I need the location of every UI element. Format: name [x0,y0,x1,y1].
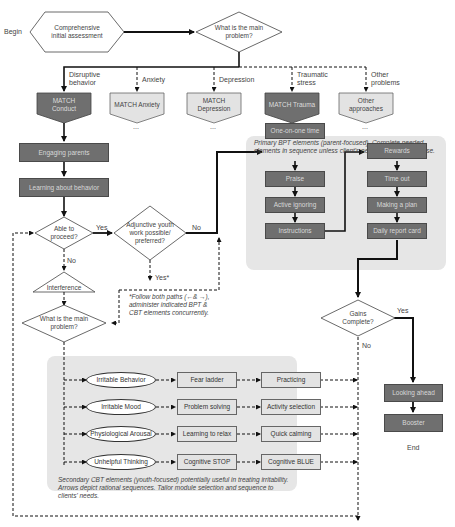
bpt-daily-report-card: Daily report card [367,223,427,239]
main-problem-decision-2: What is the main problem? [36,314,92,332]
cbt-practicing: Practicing [261,372,321,388]
cbt-learning-to-relax: Learning to relax [177,426,237,442]
branch-label-trauma: Traumatic stress [297,71,333,87]
step-engaging-parents: Engaging parents [19,143,109,162]
bpt-rewards: Rewards [367,143,427,159]
cbt-problem-unhelpful-thinking: Unhelpful Thinking [86,454,156,470]
branch-label-anxiety: Anxiety [142,76,165,84]
yes-label-1: Yes [96,224,107,232]
end-label: End [407,444,419,452]
cbt-quick-calming: Quick calming [261,426,321,442]
module-match-depression: MATCH Depression [189,96,239,114]
module-match-conduct: MATCH Conduct [40,96,88,114]
step-learning-about-behavior: Learning about behavior [19,178,109,197]
branch-label-disruptive: Disruptive behavior [69,71,109,87]
module-match-anxiety: MATCH Anxiety [113,96,161,114]
branch-label-depression: Depression [219,76,254,84]
bpt-praise: Praise [265,171,325,187]
cbt-problem-irritable-mood: Irritable Mood [86,399,156,415]
adjunctive-decision: Adjunctive youth work possible/ preferre… [124,218,176,248]
no-label-proceed: No [67,257,76,265]
yes-label-gains: Yes [397,307,408,315]
gains-complete-decision: Gains Complete? [336,310,380,326]
cbt-panel [47,356,297,491]
ellipsis-depression: ... [210,123,216,131]
cbt-cognitive-stop: Cognitive STOP [177,454,237,470]
bpt-instructions: Instructions [265,223,325,239]
yes-star-label: Yes* [155,274,169,282]
bpt-time-out: Time out [367,171,427,187]
cbt-cognitive-blue: Cognitive BLUE [261,454,321,470]
begin-label: Begin [4,28,22,36]
cbt-problem-irritable-behavior: Irritable Behavior [86,372,156,388]
comprehensive-assessment: Comprehensive initial assessment [46,20,108,44]
bpt-making-a-plan: Making a plan [367,197,427,213]
able-to-proceed-decision: Able to proceed? [50,225,78,241]
footnote: *Follow both paths (←& →), administer in… [129,293,211,317]
cbt-activity-selection: Activity selection [261,399,321,415]
cbt-problem-solving: Problem solving [177,399,237,415]
cbt-fear-ladder: Fear ladder [177,372,237,388]
cbt-caption: Secondary CBT elements (youth-focused) p… [58,476,294,500]
step-booster: Booster [384,414,443,432]
bpt-one-on-one-time: One-on-one time [265,123,325,139]
ellipsis-anxiety: ... [133,123,139,131]
main-problem-decision-1: What is the main problem? [212,22,266,42]
module-match-trauma: MATCH Trauma [268,96,316,114]
module-other-approaches: Other approaches [340,96,392,114]
ellipsis-other: ... [362,123,368,131]
no-label-adjunctive: No [192,224,201,232]
bpt-active-ignoring: Active ignoring [265,197,325,213]
cbt-problem-physiological-arousal: Physiological Arousal [86,426,156,442]
interference-triangle: Interference [40,283,88,293]
no-label-gains: No [362,342,371,350]
step-looking-ahead: Looking ahead [384,384,443,402]
branch-label-other: Other problems [371,71,401,87]
